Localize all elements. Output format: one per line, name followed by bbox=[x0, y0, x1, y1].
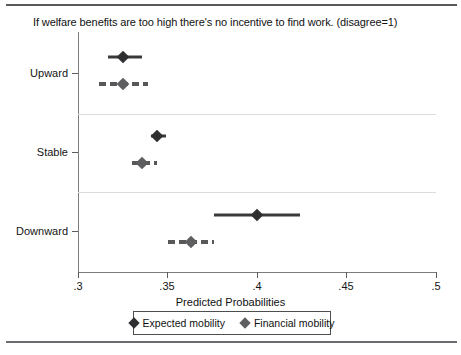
x-axis-tick bbox=[257, 272, 258, 278]
category-separator-gridline bbox=[78, 192, 436, 193]
x-axis-ticklabel: .35 bbox=[159, 280, 174, 292]
chart-title: If welfare benefits are too high there's… bbox=[33, 16, 397, 28]
data-point-marker bbox=[116, 78, 129, 91]
legend-entry-financial-mobility: Financial mobility bbox=[241, 317, 335, 329]
data-point-marker bbox=[251, 209, 264, 222]
legend-entry-expected-mobility: Expected mobility bbox=[130, 317, 225, 329]
legend-label: Expected mobility bbox=[143, 317, 225, 329]
category-separator-gridline bbox=[78, 114, 436, 115]
y-axis-line bbox=[78, 32, 79, 273]
figure: If welfare benefits are too high there's… bbox=[0, 0, 461, 355]
x-axis-tick bbox=[346, 272, 347, 278]
chart-legend: Expected mobility Financial mobility bbox=[133, 311, 331, 335]
x-axis-ticklabel: .4 bbox=[252, 280, 261, 292]
y-axis-label-downward: Downward bbox=[0, 225, 68, 237]
data-point-marker bbox=[116, 51, 129, 64]
data-point-marker bbox=[150, 130, 163, 143]
diamond-marker-icon bbox=[239, 317, 250, 328]
y-axis-label-upward: Upward bbox=[0, 67, 68, 79]
x-axis-tick bbox=[167, 272, 168, 278]
x-axis-ticklabel: .45 bbox=[338, 280, 353, 292]
y-axis-tick bbox=[72, 73, 78, 74]
data-point-marker bbox=[136, 157, 149, 170]
x-axis-tick bbox=[436, 272, 437, 278]
y-axis-tick bbox=[72, 231, 78, 232]
top-divider-rule bbox=[6, 4, 457, 6]
x-axis-tick bbox=[78, 272, 79, 278]
data-point-marker bbox=[184, 236, 197, 249]
y-axis-label-stable: Stable bbox=[0, 146, 68, 158]
x-axis-ticklabel: .5 bbox=[431, 280, 440, 292]
x-axis-ticklabel: .3 bbox=[73, 280, 82, 292]
x-axis-title: Predicted Probabilities bbox=[0, 296, 461, 308]
y-axis-tick bbox=[72, 152, 78, 153]
bottom-divider-rule bbox=[6, 341, 457, 343]
diamond-marker-icon bbox=[128, 317, 139, 328]
legend-label: Financial mobility bbox=[254, 317, 335, 329]
